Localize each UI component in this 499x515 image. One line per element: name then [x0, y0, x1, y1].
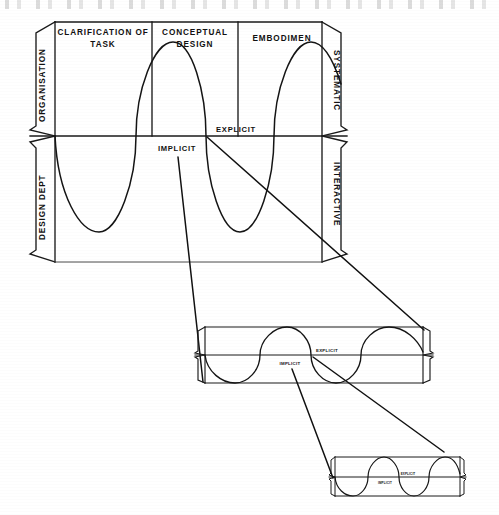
- small-wave-label-implicit: IMPLICIT: [378, 481, 392, 485]
- leader-lines-large-to-medium: [178, 137, 424, 382]
- column-header-clarification-line1: CLARIFICATION OF: [57, 28, 148, 37]
- side-label-design-dept: DESIGN DEPT: [38, 175, 47, 240]
- medium-wave-label-explicit: EXPLICIT: [316, 348, 338, 353]
- design-process-diagram: ORGANISATION DESIGN DEPT SYSTEMATIC INTE…: [0, 0, 499, 515]
- main-net: ORGANISATION DESIGN DEPT SYSTEMATIC INTE…: [30, 22, 347, 262]
- leader-line-explicit-to-small: [313, 357, 444, 452]
- process-sine-wave: [55, 42, 341, 232]
- medium-net: EXPLICIT IMPLICIT: [195, 327, 433, 383]
- wave-label-explicit: EXPLICIT: [216, 125, 256, 134]
- small-net: EXPLICIT IMPLICIT: [329, 457, 466, 496]
- leader-line-explicit-to-medium: [207, 137, 424, 330]
- side-label-interactive: INTERACTIVE: [332, 162, 341, 227]
- side-label-systematic: SYSTEMATIC: [332, 50, 341, 111]
- medium-wave-label-implicit: IMPLICIT: [279, 361, 300, 366]
- small-wave-label-explicit: EXPLICIT: [401, 472, 416, 476]
- leader-lines-medium-to-small: [292, 357, 444, 478]
- figure-root: ORGANISATION DESIGN DEPT SYSTEMATIC INTE…: [0, 0, 499, 515]
- leader-line-implicit-to-medium: [178, 157, 203, 382]
- column-header-conceptual-line2: DESIGN: [177, 40, 214, 49]
- column-header-conceptual-line1: CONCEPTUAL: [162, 28, 228, 37]
- leader-line-implicit-to-small: [292, 369, 333, 478]
- wave-label-implicit: IMPLICIT: [158, 144, 196, 153]
- column-header-embodiment-line1: EMBODIMEN: [252, 34, 311, 43]
- column-header-clarification-line2: TASK: [90, 40, 115, 49]
- side-label-organisation: ORGANISATION: [38, 48, 47, 122]
